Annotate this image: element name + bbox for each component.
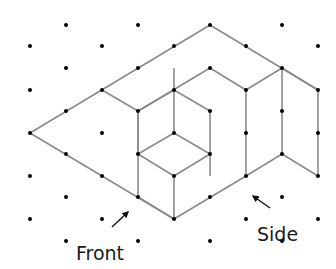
grid-dot [208, 109, 212, 113]
grid-dot [28, 217, 32, 221]
drawing-edge [246, 68, 282, 90]
drawing-edges [30, 25, 318, 219]
drawing-edge [210, 68, 246, 90]
drawing-edge [282, 154, 318, 176]
grid-dot [280, 23, 284, 27]
grid-dot [172, 131, 176, 135]
grid-dot [28, 131, 32, 135]
grid-dot [280, 152, 284, 156]
grid-dot [244, 88, 248, 92]
grid-dot [280, 109, 284, 113]
grid-dot [100, 131, 104, 135]
front-arrow-icon [112, 212, 128, 227]
grid-dot [100, 217, 104, 221]
drawing-edge [174, 90, 210, 111]
drawing-edge [138, 197, 174, 219]
grid-dot [100, 88, 104, 92]
grid-dot [316, 88, 320, 92]
grid-dot [316, 44, 320, 48]
grid-dot [172, 174, 176, 178]
drawing-edge [138, 154, 174, 176]
front-view-label: Front [76, 244, 124, 263]
grid-dot [316, 174, 320, 178]
grid-dot [136, 66, 140, 70]
grid-dot [64, 152, 68, 156]
grid-dot [28, 44, 32, 48]
grid-dot [316, 131, 320, 135]
grid-dot [64, 195, 68, 199]
grid-dot [244, 174, 248, 178]
grid-dot [64, 23, 68, 27]
grid-dot [136, 109, 140, 113]
grid-dot [244, 217, 248, 221]
grid-dot [64, 109, 68, 113]
drawing-edge [174, 154, 210, 176]
grid-dot [136, 195, 140, 199]
drawing-edge [246, 154, 282, 176]
grid-dot [208, 66, 212, 70]
grid-dot [100, 44, 104, 48]
grid-dot [28, 88, 32, 92]
side-arrow-icon [253, 196, 270, 208]
view-arrows [112, 196, 270, 227]
grid-dot [172, 88, 176, 92]
grid-dot [208, 23, 212, 27]
grid-dot [280, 195, 284, 199]
side-view-label: Side [257, 225, 298, 244]
grid-dot [136, 23, 140, 27]
drawing-edge [30, 25, 210, 133]
grid-dot [208, 239, 212, 243]
grid-dot [244, 44, 248, 48]
drawing-edge [138, 90, 174, 111]
grid-dot [64, 239, 68, 243]
drawing-edge [102, 90, 138, 111]
grid-dot [208, 195, 212, 199]
grid-dot [136, 239, 140, 243]
grid-dot [316, 217, 320, 221]
grid-dot [64, 66, 68, 70]
grid-dot [244, 131, 248, 135]
grid-dot [136, 152, 140, 156]
grid-dot [172, 217, 176, 221]
grid-dot [100, 174, 104, 178]
grid-dot [172, 44, 176, 48]
grid-dot [208, 152, 212, 156]
drawing-edge [174, 133, 210, 154]
drawing-edge [138, 133, 174, 154]
grid-dot [28, 174, 32, 178]
drawing-edge [282, 68, 318, 90]
grid-dot [280, 66, 284, 70]
